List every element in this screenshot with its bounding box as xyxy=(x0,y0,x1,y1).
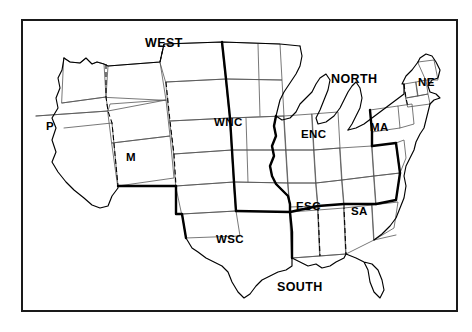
division-label-east-south-central: ESC xyxy=(296,201,321,213)
division-label-new-england: NE xyxy=(418,77,435,89)
region-label-west: WEST xyxy=(145,37,183,50)
state-boundaries xyxy=(36,42,438,258)
division-label-west-south-central: WSC xyxy=(216,234,244,246)
division-label-mountain: M xyxy=(126,152,136,164)
division-label-south-atlantic: SA xyxy=(351,206,368,218)
region-label-south: SOUTH xyxy=(277,281,323,294)
national-outline xyxy=(52,42,440,298)
region-label-north: NORTH xyxy=(331,73,377,86)
us-census-regions-map: WEST NORTH SOUTH P M WNC ENC MA NE WSC E… xyxy=(0,0,472,332)
map-graphic xyxy=(0,0,472,332)
division-label-east-north-central: ENC xyxy=(301,129,326,141)
division-label-middle-atlantic: MA xyxy=(370,122,389,134)
division-label-pacific: P xyxy=(46,121,54,133)
division-label-west-north-central: WNC xyxy=(214,117,243,129)
